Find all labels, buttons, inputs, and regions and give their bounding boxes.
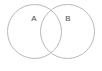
venn-circle-b [41,5,95,59]
venn-diagram-figure: A B [0,0,102,71]
venn-label-a: A [31,14,37,23]
venn-circle-a [8,5,62,59]
venn-label-b: B [65,14,70,23]
venn-diagram-canvas: A B [0,0,102,71]
